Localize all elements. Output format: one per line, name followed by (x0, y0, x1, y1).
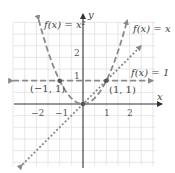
tick-x-minus-1: −1 (55, 108, 68, 118)
tick-y-2: 2 (74, 48, 80, 58)
point-right-label: (1, 1) (109, 84, 136, 95)
identity-label: f(x) = x (132, 23, 171, 34)
tick-y-1: 1 (74, 71, 80, 81)
constant-label: f(x) = 1 (130, 67, 169, 78)
tick-x-minus-2: −2 (31, 108, 44, 118)
tick-x-1: 1 (104, 108, 110, 118)
data-point (104, 78, 109, 83)
parabola-label: f(x) = x² (43, 19, 86, 30)
data-point (81, 102, 86, 107)
tick-x-2: 2 (127, 108, 133, 118)
y-axis-label: y (87, 9, 94, 20)
point-left-label: (−1, 1) (30, 83, 65, 94)
function-graph: f(x) = x² f(x) = x f(x) = 1 (−1, 1) (1, … (0, 0, 175, 173)
x-axis-label: x (157, 91, 163, 102)
